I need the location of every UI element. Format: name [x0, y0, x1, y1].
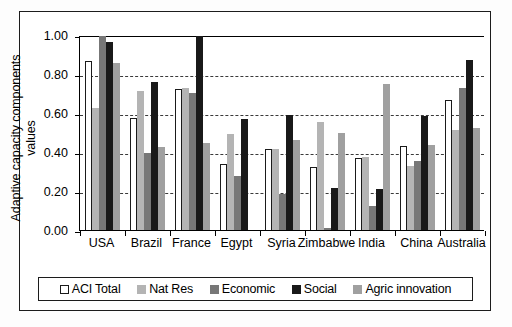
bar-group	[170, 37, 215, 231]
bar	[286, 115, 293, 231]
y-tick-mark	[75, 37, 80, 38]
bar	[428, 145, 435, 231]
x-axis-label-china: China	[400, 236, 433, 250]
bar	[158, 147, 165, 231]
bar	[383, 84, 390, 231]
bar	[220, 164, 227, 231]
chart-figure: Adaptive capacity components values 1.00…	[0, 0, 512, 327]
legend-label: Economic	[222, 282, 275, 296]
x-axis-label-brazil: Brazil	[131, 236, 162, 250]
legend-swatch-icon	[292, 285, 301, 294]
bar	[272, 149, 279, 231]
bar-group	[305, 37, 350, 231]
bar	[234, 176, 241, 231]
bar	[369, 206, 376, 231]
x-axis-label-usa: USA	[89, 236, 115, 250]
legend-label: ACI Total	[72, 282, 121, 296]
x-axis-label-france: France	[172, 236, 211, 250]
x-axis-label-syria: Syria	[267, 236, 295, 250]
bar-group	[125, 37, 170, 231]
y-tick-mark	[75, 115, 80, 116]
bar	[151, 82, 158, 231]
y-tick-label: 1.00	[24, 29, 68, 43]
bar	[293, 140, 300, 231]
bar-group	[440, 37, 485, 231]
x-axis-label-zimbabwe: Zimbabwe	[298, 236, 356, 250]
bar	[189, 93, 196, 231]
bar-group	[215, 37, 260, 231]
bar	[445, 100, 452, 231]
bar	[137, 91, 144, 231]
x-axis-label-australia: Australia	[437, 236, 486, 250]
bar	[227, 134, 234, 232]
y-tick-label: 0.00	[24, 224, 68, 238]
plot-area: 1.000.800.600.400.200.00	[79, 36, 484, 231]
x-axis-line	[80, 230, 484, 231]
x-axis-label-egypt: Egypt	[221, 236, 253, 250]
legend-item-social[interactable]: Social	[292, 282, 337, 296]
bar	[466, 60, 473, 231]
legend-item-agric[interactable]: Agric innovation	[353, 282, 451, 296]
bar	[265, 149, 272, 231]
chart-legend: ACI TotalNat ResEconomicSocialAgric inno…	[38, 277, 473, 301]
legend-label: Nat Res	[149, 282, 193, 296]
bar	[99, 36, 106, 231]
bar-group	[350, 37, 395, 231]
legend-label: Social	[304, 282, 337, 296]
bar	[459, 88, 466, 231]
y-tick-label: 0.40	[24, 146, 68, 160]
y-tick-label: 0.60	[24, 107, 68, 121]
bar-group	[395, 37, 440, 231]
legend-swatch-icon	[60, 285, 69, 294]
bar	[414, 161, 421, 231]
x-axis-label-india: India	[358, 236, 385, 250]
y-tick-mark	[75, 193, 80, 194]
x-axis-labels: USABrazilFranceEgyptSyriaZimbabweIndiaCh…	[79, 236, 484, 254]
bar	[175, 89, 182, 231]
bar	[182, 88, 189, 231]
legend-item-economic[interactable]: Economic	[210, 282, 275, 296]
bar	[196, 36, 203, 231]
bar	[400, 146, 407, 231]
legend-item-aci[interactable]: ACI Total	[60, 282, 121, 296]
bar	[241, 119, 248, 231]
bar	[92, 108, 99, 231]
bar	[473, 128, 480, 231]
plot-inner	[80, 37, 484, 231]
bar	[130, 118, 137, 231]
bar	[317, 122, 324, 231]
legend-swatch-icon	[210, 285, 219, 294]
bar	[113, 63, 120, 231]
legend-item-natres[interactable]: Nat Res	[137, 282, 193, 296]
bar	[85, 61, 92, 231]
y-tick-label: 0.20	[24, 185, 68, 199]
bar	[144, 153, 151, 231]
bar	[355, 158, 362, 231]
legend-label: Agric innovation	[365, 282, 451, 296]
y-tick-mark	[75, 154, 80, 155]
bar	[203, 143, 210, 231]
bar	[331, 188, 338, 231]
bar	[362, 157, 369, 231]
bar	[376, 189, 383, 231]
y-axis-title-line1: Adaptive capacity components	[9, 38, 24, 238]
bar-group	[80, 37, 125, 231]
bar	[279, 194, 286, 231]
bar	[421, 116, 428, 231]
y-tick-mark	[75, 76, 80, 77]
bar	[106, 42, 113, 231]
bar-group	[260, 37, 305, 231]
bar	[452, 130, 459, 231]
bar	[310, 167, 317, 231]
legend-swatch-icon	[137, 285, 146, 294]
bar	[407, 166, 414, 231]
legend-swatch-icon	[353, 285, 362, 294]
y-tick-label: 0.80	[24, 68, 68, 82]
bar	[338, 133, 345, 231]
